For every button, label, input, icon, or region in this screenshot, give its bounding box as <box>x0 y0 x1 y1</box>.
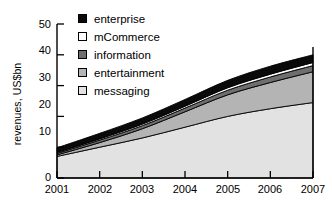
legend-label-entertainment: entertainment <box>94 67 164 79</box>
legend-swatch-entertainment <box>78 68 87 77</box>
chart-legend: enterprise mCommerce information enterta… <box>78 10 218 100</box>
legend-label-messaging: messaging <box>94 85 150 97</box>
legend-swatch-enterprise <box>78 14 87 23</box>
legend-label-mcommerce: mCommerce <box>94 31 160 43</box>
stacked-area-chart: revenues, US$bn 50 40 30 20 10 0 2001 20… <box>0 0 332 205</box>
legend-item-messaging: messaging <box>78 82 218 99</box>
legend-swatch-information <box>78 50 87 59</box>
legend-item-entertainment: entertainment <box>78 64 218 81</box>
legend-item-enterprise: enterprise <box>78 10 218 27</box>
legend-label-information: information <box>94 49 151 61</box>
legend-item-mcommerce: mCommerce <box>78 28 218 45</box>
legend-label-enterprise: enterprise <box>94 13 145 25</box>
legend-swatch-mcommerce <box>78 32 87 41</box>
legend-item-information: information <box>78 46 218 63</box>
legend-swatch-messaging <box>78 86 87 95</box>
